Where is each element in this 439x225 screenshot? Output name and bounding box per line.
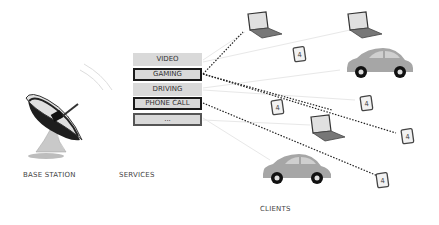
phone-icon: 4 [401,128,414,143]
base-station-label: BASE STATION [23,171,76,179]
phone-icon: 4 [271,99,284,114]
car-icon [263,154,331,184]
satellite-dish-icon [26,94,82,159]
phone-icon: 4 [360,95,373,110]
connection-lines: 4 4 4 4 4 [0,0,439,225]
signal-waves [80,64,112,90]
laptop-icon [248,12,282,38]
service-video: VIDEO [133,53,202,66]
phone-icon: 4 [376,172,389,187]
phone-icon: 4 [293,46,306,61]
laptop-icon [348,12,382,38]
service-more: ... [133,113,202,126]
network-diagram: 4 4 4 4 4 [0,0,439,225]
services-label: SERVICES [119,171,155,179]
laptop-icon [311,115,345,141]
service-driving: DRIVING [133,83,202,96]
clients-label: CLIENTS [260,205,291,213]
car-icon [347,48,413,78]
service-phone-call: PHONE CALL [133,97,202,110]
service-gaming: GAMING [133,68,202,81]
